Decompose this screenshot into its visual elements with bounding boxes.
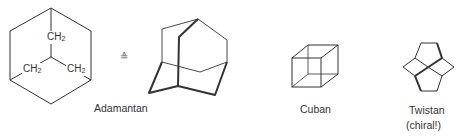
- equivalence-symbol: ≙: [120, 51, 128, 62]
- ch2-label-top: CH2: [46, 31, 66, 44]
- twistane-chiral-note: (chiral!): [406, 119, 441, 131]
- adamantane-label: Adamantan: [94, 102, 148, 114]
- adamantane-2d-structure: [10, 8, 91, 104]
- twistane-structure: [403, 43, 454, 91]
- twistane-label: Twistan: [409, 104, 445, 116]
- ch2-label-left: CH2: [22, 63, 42, 76]
- cubane-label: Cuban: [300, 103, 331, 115]
- adamantane-3d-structure: [149, 19, 227, 95]
- cubane-structure: [292, 45, 338, 87]
- ch2-label-right: CH2: [66, 63, 86, 76]
